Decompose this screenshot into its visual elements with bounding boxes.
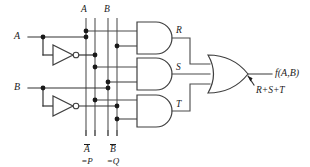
junction-b-split: [41, 86, 46, 91]
bus-label-b-bar: B: [104, 138, 122, 156]
output-label-function: f(A,B): [275, 68, 299, 78]
junction-r-in2: [115, 44, 120, 49]
junction-s-in2: [106, 80, 111, 85]
and-gate-r-label: R: [176, 26, 182, 36]
and-gate-r-body: [137, 22, 172, 54]
and-gate-s-label: S: [176, 63, 181, 73]
bus-bottom-stubs: [86, 130, 117, 136]
bus-label-b-bar-group: B =Q: [104, 138, 122, 166]
bus-label-a: A: [81, 5, 87, 15]
junction-a-bus: [84, 35, 89, 40]
bus-label-a-bar-group: A =P: [78, 138, 96, 166]
vertical-bus-lines: [86, 18, 117, 136]
junction-a-bar-bus: [93, 53, 98, 58]
junction-b-bus: [106, 86, 111, 91]
junction-r-in1: [84, 29, 89, 34]
bus-label-b-bar-text: B: [110, 144, 116, 155]
inverter-b-bubble-icon: [73, 103, 79, 109]
inverter-a-triangle: [53, 45, 73, 65]
and-gate-r-wiring: [84, 29, 137, 49]
and-gate-s-body: [137, 58, 172, 90]
or-gate-body: [208, 55, 248, 93]
input-label-a: A: [14, 31, 20, 41]
wire-r-to-or: [172, 38, 210, 64]
and-gate-r: [137, 22, 172, 54]
bus-label-a-bar-text: A: [84, 144, 90, 155]
and-gate-s: [137, 58, 172, 90]
output-arrow-annotation: [248, 76, 254, 85]
circuit-schematic-svg: [0, 0, 310, 167]
junction-t-in1: [93, 98, 98, 103]
junction-a-split: [41, 35, 46, 40]
and-gate-s-wiring: [93, 65, 137, 85]
junction-s-in1: [93, 65, 98, 70]
inverter-a-bubble-icon: [73, 52, 79, 58]
and-gate-t: [137, 95, 172, 127]
logic-circuit-diagram: A B A B A =P B =Q R S T f(A,B) R+S+T: [0, 0, 310, 167]
and-gate-t-label: T: [176, 100, 181, 110]
bus-label-b-bar-alias: =Q: [104, 156, 122, 166]
inverter-b-triangle: [53, 96, 73, 116]
junction-t-in2: [115, 117, 120, 122]
bus-label-b: B: [104, 5, 110, 15]
inverter-b: [53, 96, 79, 116]
input-label-b: B: [14, 82, 20, 92]
and-gate-t-body: [137, 95, 172, 127]
and-gate-t-wiring: [93, 98, 137, 122]
inverter-a: [53, 45, 79, 65]
bus-label-a-bar-alias: =P: [78, 156, 96, 166]
bus-label-a-bar: A: [78, 138, 96, 156]
junction-b-bar-bus: [115, 104, 120, 109]
output-expression-label: R+S+T: [256, 86, 285, 96]
annotation-arrow-head-icon: [248, 76, 253, 82]
